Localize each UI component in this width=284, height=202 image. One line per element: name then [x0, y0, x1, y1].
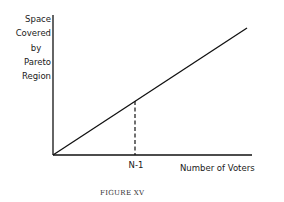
figure-caption: FIGURE XV — [100, 189, 145, 197]
y-label-line-1: Space — [25, 14, 51, 24]
x-axis-label: Number of Voters — [180, 163, 255, 173]
diagram: Space Covered by Pareto Region N-1 Numbe… — [0, 0, 284, 202]
y-label-line-2: Covered — [16, 28, 51, 38]
y-label-line-5: Region — [22, 71, 51, 81]
y-label-line-3: by — [31, 43, 41, 53]
pareto-line — [53, 28, 247, 155]
x-tick-n-minus-1: N-1 — [129, 160, 144, 170]
y-label-line-4: Pareto — [24, 57, 51, 67]
